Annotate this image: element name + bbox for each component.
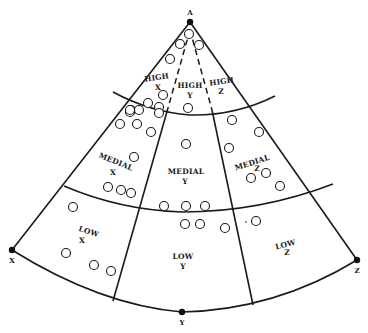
data-point (160, 202, 169, 211)
region-medial-y-line1: MEDIAL (168, 167, 205, 176)
data-point (181, 220, 190, 229)
data-point (127, 189, 136, 198)
region-low-z: LOW Z (274, 238, 297, 257)
data-point (225, 144, 234, 153)
region-low-y-line2: Y (179, 262, 186, 271)
data-point (117, 186, 126, 195)
edge-a-x (12, 22, 190, 250)
data-point (144, 99, 153, 108)
region-medial-y: MEDIAL Y (168, 167, 205, 186)
region-low-x: LOW X (77, 224, 100, 245)
edge-a-z (190, 22, 357, 260)
data-point (182, 202, 191, 211)
vertex-y-label: Y (179, 318, 186, 327)
region-medial-x: MEDIAL X (97, 151, 135, 177)
region-medial-y-line2: Y (181, 177, 188, 186)
region-high-x-line1: HIGH (144, 71, 170, 83)
region-high-x: HIGH X (144, 71, 170, 92)
vertex-y: Y (179, 309, 186, 327)
region-high-x-line2: X (155, 83, 161, 92)
region-high-z: HIGH Z (209, 75, 235, 96)
data-point (130, 153, 139, 162)
ink-dot (245, 221, 247, 223)
sector-diagram: A X Y Z HIGH X HIGH Y HIGH Z MEDIAL X ME… (0, 0, 368, 333)
vertex-x-dot (9, 247, 15, 253)
region-medial-x-line2: X (110, 168, 116, 177)
vertex-a-label: A (186, 8, 193, 17)
region-low-y-line1: LOW (173, 252, 194, 261)
data-point (90, 261, 99, 270)
data-point (182, 140, 191, 149)
data-point (185, 30, 194, 39)
data-point (184, 104, 193, 113)
data-point (159, 91, 168, 100)
vertex-x-label: X (9, 256, 15, 265)
region-high-z-line2: Z (218, 87, 224, 96)
vertex-a-dot (187, 19, 193, 25)
data-point (221, 224, 230, 233)
vertex-z-dot (354, 257, 360, 263)
data-point (147, 128, 156, 137)
vertex-a: A (186, 8, 193, 25)
data-point (262, 169, 271, 178)
data-point (228, 116, 237, 125)
data-point (62, 249, 71, 258)
region-medial-x-line1: MEDIAL (97, 151, 135, 173)
data-point (155, 109, 164, 118)
region-low-z-line2: Z (284, 248, 290, 257)
data-point (196, 220, 205, 229)
data-point (69, 203, 78, 212)
data-point (252, 217, 261, 226)
data-point (166, 55, 175, 64)
data-point (276, 182, 285, 191)
data-point (126, 106, 135, 115)
region-low-y: LOW Y (173, 252, 194, 271)
data-point (176, 40, 185, 49)
data-point (247, 174, 256, 183)
data-point (133, 120, 142, 129)
data-point (195, 41, 204, 50)
region-high-y: HIGH Y (178, 81, 203, 100)
region-high-z-line1: HIGH (209, 75, 235, 87)
data-point (255, 128, 264, 137)
data-point (104, 183, 113, 192)
region-low-x-line2: X (79, 236, 85, 245)
data-point (201, 202, 210, 211)
data-points-boundary (160, 202, 210, 211)
region-high-y-line1: HIGH (178, 81, 203, 90)
data-points-low (62, 203, 261, 276)
vertex-x: X (9, 247, 15, 265)
region-high-y-line2: Y (186, 91, 193, 100)
region-medial-z-line2: Z (254, 164, 260, 173)
vertex-z-label: Z (354, 266, 359, 275)
data-point (107, 267, 116, 276)
data-point (135, 106, 144, 115)
data-point (116, 120, 125, 129)
vertex-y-dot (179, 309, 185, 315)
vertex-z: Z (354, 257, 360, 275)
